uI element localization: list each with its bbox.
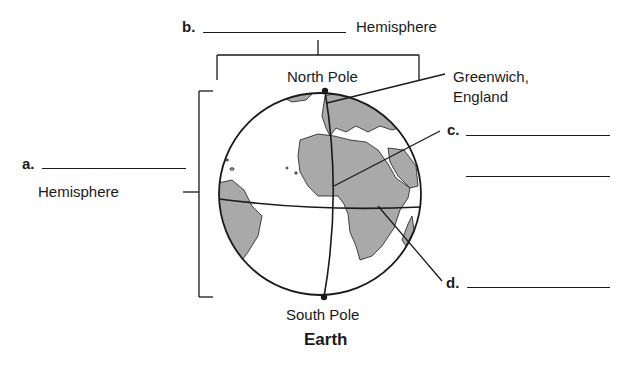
greenwich-label-line2: England <box>453 88 508 105</box>
question-b-letter: b. <box>182 18 195 35</box>
bracket-a <box>183 91 213 297</box>
question-d-letter: d. <box>446 274 459 291</box>
island <box>230 168 234 171</box>
question-b-suffix: Hemisphere <box>356 18 437 35</box>
island <box>295 172 297 174</box>
question-a-answer-blank[interactable] <box>42 168 186 169</box>
north-pole-dot <box>322 88 328 94</box>
south-pole-label: South Pole <box>286 306 359 323</box>
greenwich-label-line1: Greenwich, <box>453 68 529 85</box>
north-pole-label: North Pole <box>287 68 358 85</box>
question-d-answer-blank[interactable] <box>467 287 610 288</box>
island <box>286 167 288 169</box>
europe <box>322 92 404 136</box>
question-a-letter: a. <box>22 155 35 172</box>
diagram-title: Earth <box>304 331 347 348</box>
question-b-answer-blank[interactable] <box>203 32 346 33</box>
south-pole-dot <box>321 294 327 300</box>
question-a-suffix: Hemisphere <box>38 183 119 200</box>
question-c-answer-blank-1[interactable] <box>466 135 610 136</box>
question-c-letter: c. <box>447 121 460 138</box>
question-c-answer-blank-2[interactable] <box>466 176 610 177</box>
